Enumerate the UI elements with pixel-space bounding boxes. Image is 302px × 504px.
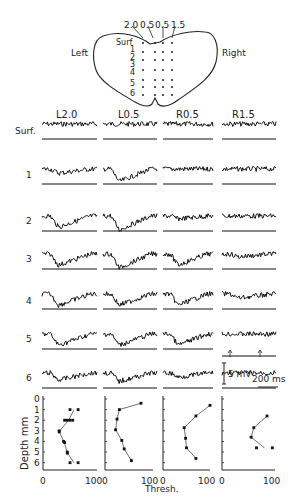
data-point <box>58 431 61 434</box>
y-tick: 0 <box>34 394 40 404</box>
data-point <box>195 457 198 460</box>
y-tick: 2 <box>34 415 40 425</box>
row-label-3: 3 <box>26 254 32 264</box>
y-tick: 6 <box>34 458 40 468</box>
trace-grid <box>42 122 276 389</box>
data-point <box>209 404 212 407</box>
x-tick: 100 <box>263 476 280 486</box>
electrode-label-r05: 0.5 <box>155 20 169 30</box>
trace <box>222 167 276 172</box>
electrode-label-r15: 1.5 <box>171 20 185 30</box>
data-point <box>183 426 186 429</box>
data-point <box>185 446 188 449</box>
depth-axis-label: Depth mm <box>19 417 30 470</box>
trace <box>103 122 157 127</box>
trace <box>42 214 97 229</box>
trace <box>103 371 157 384</box>
electrode-dots <box>142 42 173 96</box>
scale-time-label: 200 ms <box>252 374 286 384</box>
column-header-r05: R0.5 <box>176 109 199 120</box>
y-tick: 4 <box>34 436 40 446</box>
data-point <box>69 408 72 411</box>
y-tick: 3 <box>34 426 40 436</box>
row-label-6: 6 <box>26 373 32 383</box>
data-point <box>252 426 255 429</box>
trace <box>222 332 276 337</box>
column-header-l05: L0.5 <box>118 109 139 120</box>
row-label-1: 1 <box>26 170 32 180</box>
x-tick: 0 <box>219 476 225 486</box>
data-point <box>77 408 80 411</box>
x-tick: 0 <box>40 476 46 486</box>
data-point <box>69 461 72 464</box>
trace <box>103 332 157 347</box>
trace <box>42 122 97 127</box>
data-point <box>255 446 258 449</box>
data-point <box>116 418 119 421</box>
data-point <box>63 441 66 444</box>
data-point <box>71 419 74 422</box>
x-tick: 100 <box>85 476 102 486</box>
electrode-label-l05: 0.5 <box>140 20 154 30</box>
threshold-plots: 01234560100010001000100 <box>34 394 280 486</box>
right-label: Right <box>222 48 246 58</box>
x-tick: 100 <box>198 476 215 486</box>
y-tick: 1 <box>34 405 40 415</box>
depth-label-5: 5 <box>130 79 135 88</box>
data-point <box>66 419 69 422</box>
data-point <box>130 459 133 462</box>
data-point <box>184 437 187 440</box>
data-point <box>114 428 117 431</box>
row-label-2: 2 <box>26 216 32 226</box>
trace <box>103 252 157 270</box>
trace <box>42 332 97 346</box>
depth-label-4: 4 <box>130 68 135 77</box>
trace <box>103 214 157 232</box>
trace <box>103 167 157 181</box>
data-point <box>63 419 66 422</box>
thresh-axis-label: Thresh. <box>144 484 179 494</box>
scale-voltage-label: 5 mV <box>228 369 252 379</box>
trace <box>163 332 213 345</box>
row-label-surf: Surf. <box>15 126 36 136</box>
data-point <box>195 415 198 418</box>
row-label-4: 4 <box>26 296 32 306</box>
data-point <box>140 402 143 405</box>
trace <box>42 252 97 268</box>
trace <box>163 122 213 127</box>
data-point <box>66 452 69 455</box>
x-tick: 0 <box>102 476 108 486</box>
depth-label-6: 6 <box>130 89 135 98</box>
figure: 2.0 0.5 0.5 1.5 Left Right Surf 1 2 3 4 … <box>0 0 302 504</box>
trace <box>222 292 276 300</box>
data-point <box>118 408 121 411</box>
trace <box>42 371 97 382</box>
left-label: Left <box>71 48 88 58</box>
column-header-l20: L2.0 <box>56 109 77 120</box>
trace <box>222 122 276 127</box>
trace <box>163 292 213 305</box>
y-tick: 5 <box>34 447 40 457</box>
row-label-5: 5 <box>26 334 32 344</box>
data-point <box>271 446 274 449</box>
trace <box>222 252 276 259</box>
trace <box>42 167 97 176</box>
trace <box>163 371 213 379</box>
data-point <box>266 415 269 418</box>
trace <box>222 214 276 219</box>
trace <box>103 292 157 307</box>
data-point <box>77 461 80 464</box>
trace <box>163 167 213 172</box>
electrode-label-l2: 2.0 <box>124 20 139 30</box>
trace <box>163 214 213 221</box>
trace <box>163 252 213 267</box>
data-point <box>120 439 123 442</box>
data-point <box>250 436 253 439</box>
column-header-r15: R1.5 <box>232 109 255 120</box>
data-point <box>69 419 72 422</box>
data-point <box>123 447 126 450</box>
trace <box>42 292 97 308</box>
